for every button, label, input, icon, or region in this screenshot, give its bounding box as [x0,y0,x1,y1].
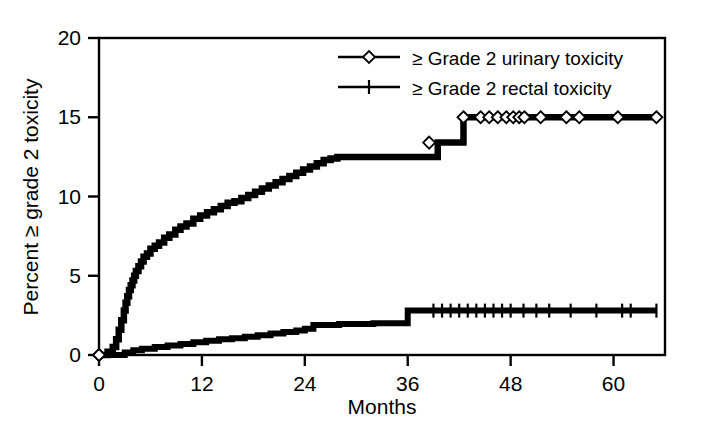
x-tick-label-12: 12 [190,372,213,395]
y-tick-label-20: 20 [58,26,81,49]
survival-curve-chart: 05101520 01224364860 Months Percent ≥ gr… [0,0,701,429]
y-tick-label-10: 10 [58,185,81,208]
x-tick-label-48: 48 [499,372,522,395]
y-axis-title: Percent ≥ grade 2 toxicity [19,78,42,315]
y-tick-label-5: 5 [69,264,81,287]
x-tick-label-60: 60 [602,372,625,395]
x-tick-label-36: 36 [396,372,419,395]
x-axis-title: Months [348,395,417,418]
legend-label: ≥ Grade 2 urinary toxicity [412,48,624,69]
figure-container: 05101520 01224364860 Months Percent ≥ gr… [0,0,701,429]
legend-label: ≥ Grade 2 rectal toxicity [412,78,612,99]
y-tick-label-0: 0 [69,343,81,366]
y-tick-label-15: 15 [58,105,81,128]
x-tick-label-0: 0 [93,372,105,395]
x-tick-label-24: 24 [293,372,317,395]
